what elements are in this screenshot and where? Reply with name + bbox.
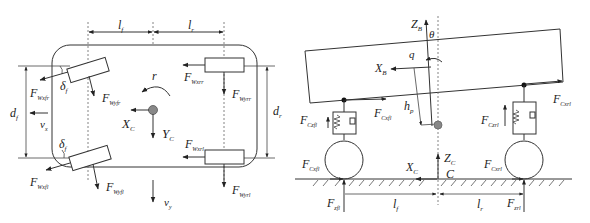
yaw-rate-arrow: [142, 87, 170, 96]
fzfl-label: Fzfl: [326, 196, 340, 211]
fcxfl-body-label: FCxfl: [373, 106, 392, 121]
yaw-rate-label: r: [152, 69, 157, 83]
fczfl-label: FCzfl: [299, 113, 317, 128]
vehicle-dynamics-diagram: lf lr df dr FWxfr δf FWyfr FWxrr FWyrr v…: [0, 0, 590, 223]
hp-label: hp: [404, 99, 414, 115]
front-tire: [325, 141, 363, 179]
lr-side-label: lr: [477, 197, 483, 213]
fwxrr-label: FWxrr: [183, 70, 204, 85]
delta-f-lower-label: δf: [59, 137, 68, 153]
fwyfr-arrow: [89, 76, 94, 96]
steer-angle-arc-upper: [60, 66, 62, 74]
fwyrr-label: FWyrr: [231, 87, 252, 102]
fwyfl-arrow: [93, 164, 98, 189]
cg-point: [149, 106, 158, 115]
fczrl-label: FCzrl: [480, 113, 499, 128]
xc-label-side: XC: [405, 160, 418, 176]
delta-f-upper-label: δf: [60, 79, 69, 95]
fwyfl-label: FWyfl: [105, 180, 124, 195]
dr-label: dr: [273, 104, 282, 120]
front-spring: [334, 115, 340, 129]
xc-label: XC: [121, 116, 135, 133]
vy-label: vy: [164, 196, 172, 210]
fzrl-label: Fzrl: [506, 196, 521, 211]
q-label: q: [409, 48, 415, 60]
fwxrl-label: FWxrl: [184, 137, 204, 152]
df-label: df: [10, 106, 19, 122]
rear-right-wheel: [205, 58, 244, 72]
top-view-panel: lf lr df dr FWxfr δf FWyfr FWxrr FWyrr v…: [10, 18, 282, 210]
cg-point-side: [434, 121, 442, 129]
lr-label: lr: [188, 18, 194, 34]
front-damper: [350, 118, 355, 124]
vx-label: vx: [40, 118, 48, 132]
fcxrl-tire-label: FCxrl: [483, 157, 502, 172]
point-c-label: C: [446, 167, 455, 181]
ground-hatching: [313, 180, 564, 186]
rear-damper: [530, 112, 535, 118]
zb-label: ZB: [411, 17, 423, 33]
xb-axis-arrow: [391, 67, 431, 69]
lf-side-label: lf: [393, 197, 399, 213]
fcxfl-tire-label: FCxfl: [301, 157, 320, 172]
zc-label: ZC: [444, 151, 456, 167]
rear-left-wheel: [205, 150, 244, 164]
xb-label: XB: [374, 61, 387, 77]
side-view-panel: ZB θ q XB hp FCxfl FCzfl FCxfl Fzfl FC: [295, 16, 572, 213]
fwyfr-label: FWyfr: [101, 91, 121, 106]
rear-spring: [513, 110, 519, 124]
theta-label: θ: [429, 28, 435, 40]
hp-dimension: [414, 68, 421, 125]
rear-tire: [505, 141, 543, 179]
fwyrl-label: FWyrl: [231, 183, 251, 198]
yc-label: YC: [162, 126, 174, 143]
fwxfl-label: FWxfl: [29, 175, 49, 190]
fcxrl-body-label: FCxrl: [552, 92, 571, 107]
fwxfr-label: FWxfr: [29, 86, 50, 101]
